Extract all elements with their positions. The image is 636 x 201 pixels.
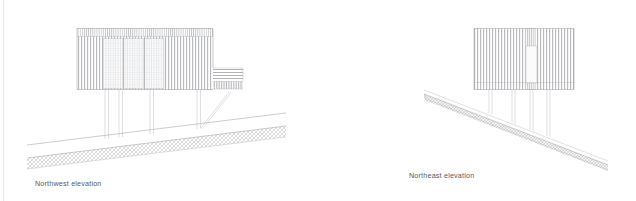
terrain-line-ne bbox=[424, 90, 608, 161]
columns-nw bbox=[105, 90, 201, 139]
diagonal-brace-nw-2 bbox=[203, 93, 231, 129]
northeast-elevation-figure bbox=[424, 29, 608, 172]
caption-northwest-elevation: Northwest elevation bbox=[35, 179, 102, 188]
drawing-sheet: Northwest elevation Northeast elevation bbox=[0, 0, 636, 201]
elevation-drawings bbox=[0, 0, 636, 201]
ground-hatch-ne bbox=[424, 94, 608, 171]
facade-nw bbox=[77, 29, 213, 90]
diagonal-brace-nw bbox=[201, 92, 229, 128]
window-ne bbox=[526, 46, 537, 83]
facade-ne bbox=[474, 29, 574, 90]
columns-ne bbox=[489, 90, 550, 137]
ground-hatch-nw bbox=[27, 126, 286, 169]
northwest-elevation-figure bbox=[27, 29, 286, 170]
caption-northeast-elevation: Northeast elevation bbox=[409, 171, 474, 180]
glazing-panels-nw bbox=[103, 39, 164, 89]
